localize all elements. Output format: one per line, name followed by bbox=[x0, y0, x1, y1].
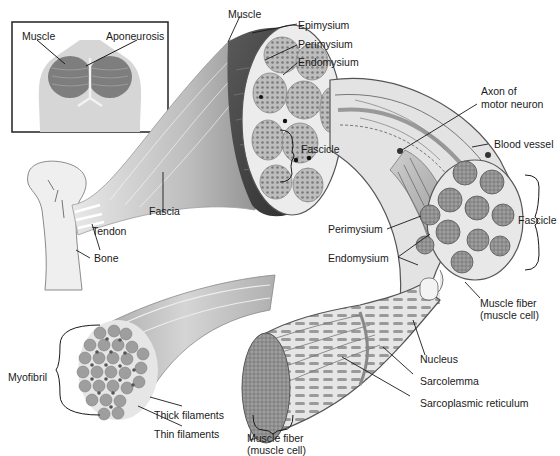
label-myofibril: Myofibril bbox=[8, 371, 47, 383]
inset-label-aponeurosis: Aponeurosis bbox=[106, 30, 164, 42]
diagram-artwork bbox=[0, 0, 560, 456]
label-sarcoplasmic-reticulum: Sarcoplasmic reticulum bbox=[420, 397, 529, 409]
label-muscle: Muscle bbox=[228, 8, 261, 20]
muscle-cross-section bbox=[242, 25, 342, 215]
label-endomysium-mid: Endomysium bbox=[328, 252, 389, 264]
label-fascia: Fascia bbox=[149, 205, 180, 217]
label-perimysium-top: Perimysium bbox=[298, 38, 353, 50]
label-muscle-fiber-bottom-line2: (muscle cell) bbox=[247, 444, 306, 456]
inset-label-muscle: Muscle bbox=[22, 30, 55, 42]
label-sarcolemma: Sarcolemma bbox=[420, 375, 479, 387]
label-muscle-fiber-bottom-line1: Muscle fiber bbox=[247, 432, 304, 444]
label-epimysium: Epimysium bbox=[298, 19, 349, 31]
label-axon-line1: Axon of bbox=[481, 85, 517, 97]
label-perimysium-mid: Perimysium bbox=[328, 223, 383, 235]
label-muscle-fiber-right-line1: Muscle fiber bbox=[480, 297, 537, 309]
label-fascicle-right: Fascicle bbox=[518, 214, 557, 226]
label-thin-filaments: Thin filaments bbox=[154, 428, 219, 440]
label-bone: Bone bbox=[94, 252, 119, 264]
label-nucleus: Nucleus bbox=[420, 353, 458, 365]
label-tendon: Tendon bbox=[92, 225, 126, 237]
muscle-fiber-illustration bbox=[242, 278, 440, 443]
label-endomysium-top: Endomysium bbox=[298, 56, 359, 68]
label-fascicle-left: Fascicle bbox=[301, 143, 340, 155]
label-thick-filaments: Thick filaments bbox=[154, 409, 224, 421]
label-axon-line2: motor neuron bbox=[481, 98, 543, 110]
label-blood-vessel: Blood vessel bbox=[494, 138, 554, 150]
label-muscle-fiber-right-line2: (muscle cell) bbox=[480, 309, 539, 321]
muscle-structure-diagram: Muscle Aponeurosis Muscle Epimysium Peri… bbox=[0, 0, 560, 456]
